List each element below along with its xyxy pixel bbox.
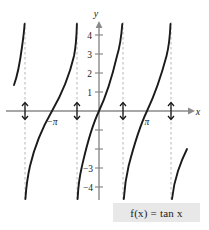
formula-box: f(x) = tan x	[113, 203, 200, 222]
y-tick-label-3: 3	[87, 50, 92, 60]
branch-right-outer	[172, 149, 187, 199]
y-axis-arrow	[96, 21, 103, 28]
x-axis-arrow	[188, 108, 195, 115]
tangent-function-graph: y x 4 3 2 1 −3 −4 −π π f(x) = tan x	[0, 0, 209, 230]
y-tick-label-neg4: −4	[83, 183, 93, 193]
x-tick-label-neg-pi: −π	[46, 117, 57, 127]
y-tick-label-neg3: −3	[83, 164, 93, 174]
x-axis-label: x	[195, 106, 201, 117]
branch-left-outer	[14, 24, 25, 85]
y-axis-label: y	[93, 8, 99, 19]
y-tick-label-1: 1	[87, 88, 92, 98]
y-tick-label-4: 4	[87, 31, 92, 41]
graph-canvas: y x 4 3 2 1 −3 −4 −π π	[0, 0, 209, 230]
y-tick-label-2: 2	[87, 69, 92, 79]
formula-label: f(x) = tan x	[130, 207, 182, 219]
x-tick-label-pi: π	[145, 117, 150, 127]
